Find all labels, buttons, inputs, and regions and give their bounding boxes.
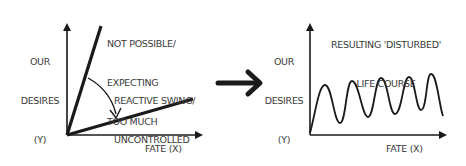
y-label-line: (Y)	[262, 133, 306, 146]
y-label-line: (Y)	[18, 133, 62, 146]
title-line: LIFE COURSE	[326, 77, 446, 90]
right-y-axis-label: OUR DESIRES (Y)	[262, 29, 306, 166]
label-line: REACTIVE SWING/	[114, 94, 195, 107]
diagram: OUR DESIRES (Y) NOT POSSIBLE/ EXPECTING …	[0, 0, 466, 166]
right-chart-title: RESULTING 'DISTURBED' LIFE COURSE	[326, 12, 446, 116]
y-label-line: DESIRES	[18, 94, 62, 107]
label-line: NOT POSSIBLE/	[107, 37, 176, 50]
arrow-right-icon	[218, 72, 260, 94]
left-y-axis-label: OUR DESIRES (Y)	[18, 29, 62, 166]
steep-line	[67, 26, 101, 135]
y-label-line: OUR	[18, 55, 62, 68]
right-x-axis-label: FATE (X)	[386, 142, 423, 155]
title-line: RESULTING 'DISTURBED'	[326, 38, 446, 51]
y-label-line: OUR	[262, 55, 306, 68]
y-label-line: DESIRES	[262, 94, 306, 107]
left-x-axis-label: FATE (X)	[145, 142, 182, 155]
